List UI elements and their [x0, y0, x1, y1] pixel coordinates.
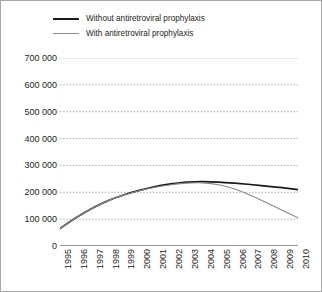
x-tick-label: 1995 [64, 249, 73, 269]
x-tick-label: 2004 [207, 249, 216, 269]
gridlines [60, 58, 298, 219]
data-lines [60, 182, 298, 229]
legend-label-without: Without antiretroviral prophylaxis [86, 14, 205, 24]
y-tick-label: 400 000 [3, 134, 57, 144]
y-tick-label: 100 000 [3, 214, 57, 224]
legend-item-without: Without antiretroviral prophylaxis [53, 11, 293, 26]
x-tick-label: 1998 [112, 249, 121, 269]
y-tick-label: 200 000 [3, 187, 57, 197]
legend-item-with: With antiretroviral prophylaxis [53, 26, 293, 41]
chart-legend: Without antiretroviral prophylaxis With … [53, 11, 293, 41]
y-tick-label: 300 000 [3, 160, 57, 170]
legend-label-with: With antiretroviral prophylaxis [86, 29, 193, 39]
y-tick-label: 600 000 [3, 80, 57, 90]
x-axis-labels: 1995199619971998199920002001200220032004… [60, 249, 298, 291]
y-tick-label: 700 000 [3, 53, 57, 63]
x-tick-label: 2008 [270, 249, 279, 269]
x-tick-label: 2006 [239, 249, 248, 269]
x-tick-label: 1997 [96, 249, 105, 269]
x-tick-label: 2000 [143, 249, 152, 269]
plot-area [60, 58, 298, 246]
x-tick-label: 2002 [175, 249, 184, 269]
y-tick-label: 500 000 [3, 107, 57, 117]
y-axis-labels: 0100 000200 000300 000400 000500 000600 … [1, 1, 57, 292]
series-line-without [60, 182, 298, 229]
x-tick-label: 1999 [127, 249, 136, 269]
plot-svg [60, 58, 298, 246]
x-tick-label: 2001 [159, 249, 168, 269]
x-axis-line [60, 245, 298, 246]
x-tick-label: 2007 [254, 249, 263, 269]
chart-figure: Without antiretroviral prophylaxis With … [0, 0, 322, 292]
y-tick-label: 0 [3, 241, 57, 251]
x-tick-label: 2010 [302, 249, 311, 269]
x-tick-label: 2005 [223, 249, 232, 269]
x-tick-label: 2003 [191, 249, 200, 269]
x-tick-label: 2009 [286, 249, 295, 269]
x-tick-label: 1996 [80, 249, 89, 269]
